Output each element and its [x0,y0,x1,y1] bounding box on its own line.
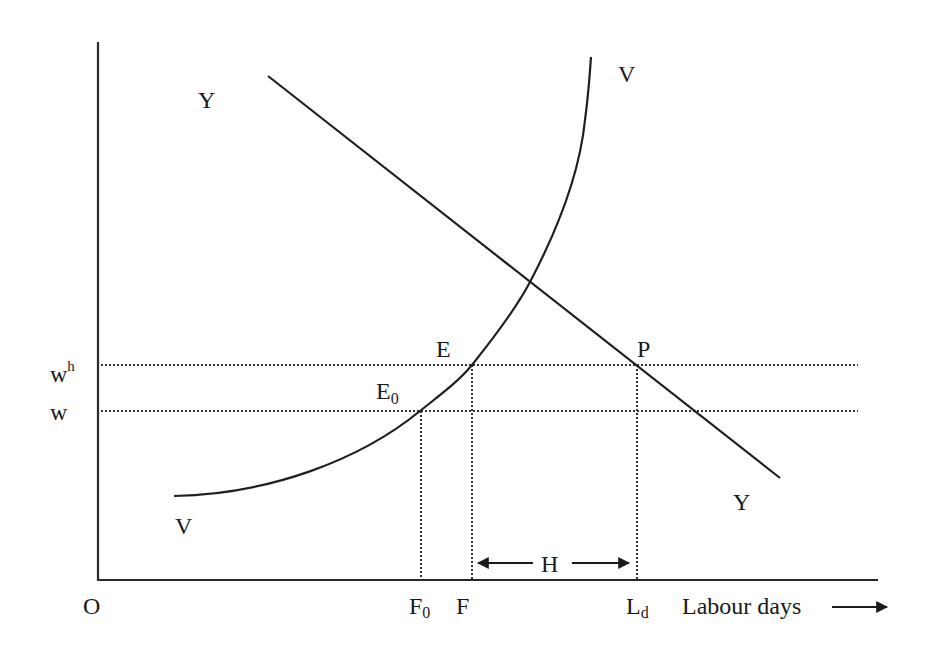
tick-f0: F0 [409,593,430,621]
tick-ld: Ld [626,593,649,621]
wh-label: wh [50,358,75,387]
yy-label-start: Y [198,87,215,113]
w-label: w [50,399,68,425]
h-label: H [541,551,558,577]
vv-curve [174,57,591,496]
yy-label-end: Y [733,489,750,515]
vv-label-end: V [618,61,636,87]
origin-label: O [83,593,100,619]
vv-label-start: V [175,513,193,539]
point-p: P [637,336,650,362]
yy-line [268,76,780,478]
tick-f: F [456,593,469,619]
point-e0: E0 [376,378,399,407]
x-axis-label: Labour days [682,593,801,619]
labour-market-diagram: Y Y V V wh w E0 E P H O F0 F Ld Labour d… [0,0,928,655]
point-e: E [436,336,451,362]
h-interval: H [478,551,629,577]
